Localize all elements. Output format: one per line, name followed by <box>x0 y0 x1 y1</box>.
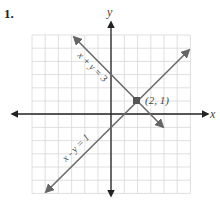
x-axis-label: x <box>209 107 216 121</box>
line-x-minus-y-1 <box>46 50 189 192</box>
coordinate-graph: x y (2, 1) x + y = 3 x - y = 1 <box>0 0 220 204</box>
intersection-label: (2, 1) <box>145 94 169 107</box>
label-x-plus-y-3: x + y = 3 <box>75 49 110 84</box>
intersection-point <box>133 97 140 104</box>
y-axis-label: y <box>106 5 113 19</box>
label-x-minus-y-1: x - y = 1 <box>59 132 92 165</box>
